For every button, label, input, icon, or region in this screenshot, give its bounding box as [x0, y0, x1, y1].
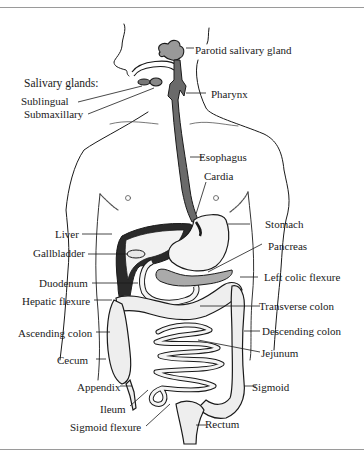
label-esophagus: Esophagus [199, 151, 247, 163]
label-jejunum: Jejunum [261, 347, 298, 359]
parotid-gland [159, 40, 184, 60]
chest-shadow-left [100, 194, 118, 210]
label-ileum: Ileum [100, 403, 126, 415]
label-pharynx: Pharynx [211, 88, 248, 100]
label-gallbladder: Gallbladder [33, 247, 85, 259]
abdomen-right-line [248, 192, 254, 360]
label-parotid-salivary-gland: Parotid salivary gland [195, 44, 292, 56]
chest-shadow-right [230, 192, 248, 212]
rectum-shape [176, 401, 204, 444]
label-pancreas: Pancreas [268, 240, 307, 252]
ascending-colon-shape [107, 300, 130, 384]
label-hepatic-flexure: Hepatic flexure [22, 295, 90, 307]
label-ascending-colon: Ascending colon [18, 327, 92, 339]
nipple-left [126, 196, 131, 201]
face-profile-outline [114, 24, 129, 76]
label-sigmoid-flexure: Sigmoid flexure [70, 421, 141, 433]
gallbladder-shape [127, 250, 145, 258]
nipple-right [214, 196, 219, 201]
label-left-colic-flexure: Left colic flexure [264, 271, 340, 283]
label-sublingual: Sublingual [21, 95, 69, 107]
sublingual-gland [138, 79, 150, 85]
head-back-outline [207, 28, 209, 44]
submaxillary-gland [150, 78, 162, 86]
small-intestine-coils [151, 325, 222, 404]
label-cardia: Cardia [204, 170, 233, 182]
label-submaxillary: Submaxillary [24, 108, 83, 120]
pancreas-shape [156, 269, 232, 286]
abdomen-left-line [96, 194, 100, 380]
label-appendix: Appendix [77, 381, 120, 393]
label-duodenum: Duodenum [39, 277, 88, 289]
collarbone-left [110, 122, 158, 124]
label-transverse-colon: Transverse colon [259, 300, 334, 312]
label-stomach: Stomach [265, 218, 304, 230]
label-cecum: Cecum [57, 354, 88, 366]
label-liver: Liver [55, 228, 79, 240]
label-rectum: Rectum [205, 418, 239, 430]
esophagus-tube [168, 60, 198, 222]
collarbone-right [190, 122, 238, 126]
diagram-frame: Salivary glands: Sublingual Submaxillary… [0, 0, 364, 459]
salivary-glands-heading: Salivary glands: [24, 77, 98, 89]
label-descending-colon: Descending colon [262, 325, 341, 337]
label-sigmoid: Sigmoid [252, 381, 289, 393]
